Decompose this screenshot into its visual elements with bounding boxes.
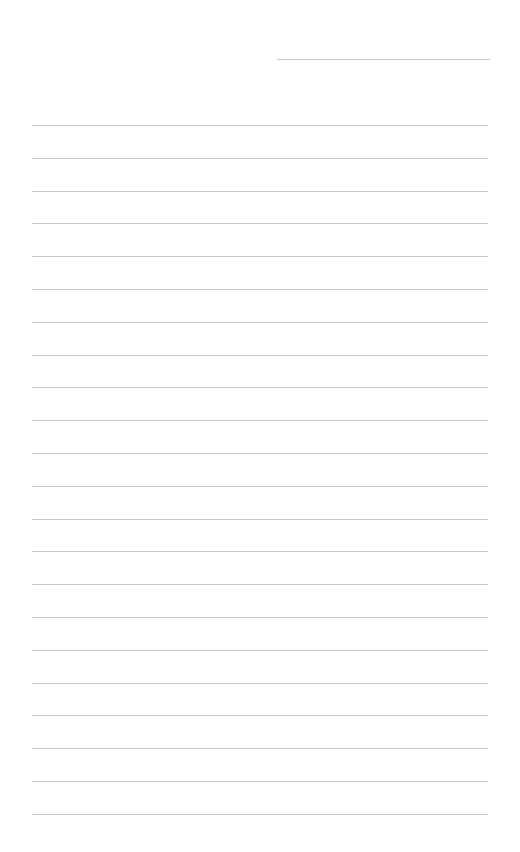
ruled-line [32, 158, 488, 159]
ruled-line [32, 223, 488, 224]
ruled-line [32, 617, 488, 618]
ruled-line [32, 748, 488, 749]
ruled-lines [0, 0, 520, 852]
ruled-line [32, 453, 488, 454]
ruled-line [32, 551, 488, 552]
ruled-line [32, 322, 488, 323]
ruled-line [32, 486, 488, 487]
ruled-line [32, 125, 488, 126]
ruled-line [32, 355, 488, 356]
lined-paper-page [0, 0, 520, 852]
ruled-line [32, 584, 488, 585]
ruled-line [32, 781, 488, 782]
ruled-line [32, 387, 488, 388]
ruled-line [32, 256, 488, 257]
ruled-line [32, 650, 488, 651]
ruled-line [32, 519, 488, 520]
ruled-line [32, 814, 488, 815]
ruled-line [32, 191, 488, 192]
ruled-line [32, 715, 488, 716]
ruled-line [32, 420, 488, 421]
ruled-line [32, 683, 488, 684]
ruled-line [32, 289, 488, 290]
